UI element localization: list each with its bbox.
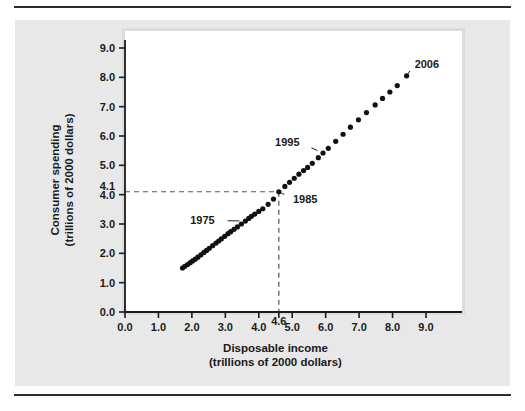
- annotation-label: 1995: [275, 136, 299, 148]
- annotation-group: 1975198519952006: [190, 58, 439, 227]
- data-point: [320, 150, 325, 155]
- y-tick-label: 8.0: [100, 71, 115, 83]
- data-point: [276, 189, 281, 194]
- y-axis-subtitle: (trillions of 2000 dollars): [63, 113, 75, 246]
- data-point: [364, 110, 369, 115]
- x-tick-label: 8.0: [385, 321, 400, 333]
- annotation-label: 1985: [293, 193, 317, 205]
- x-tick-group: 0.01.02.03.04.05.06.07.08.09.04.6: [117, 312, 433, 333]
- data-point: [316, 155, 321, 160]
- annotation-leader-line: [407, 71, 410, 75]
- x-tick-label: 0.0: [117, 321, 132, 333]
- x-tick-label: 5.0: [285, 321, 300, 333]
- data-point: [271, 196, 276, 201]
- x-tick-label-special: 4.6: [271, 315, 286, 327]
- data-point: [287, 180, 292, 185]
- data-point: [326, 146, 331, 151]
- data-point: [266, 202, 271, 207]
- data-point: [282, 184, 287, 189]
- data-point: [310, 161, 315, 166]
- x-tick-label: 6.0: [318, 321, 333, 333]
- data-point: [292, 176, 297, 181]
- annotation-label: 2006: [415, 58, 439, 70]
- y-tick-label: 9.0: [100, 42, 115, 54]
- x-tick-label: 1.0: [151, 321, 166, 333]
- y-tick-label: 7.0: [100, 101, 115, 113]
- scatter-chart: 0.01.02.03.04.05.06.07.08.09.04.6 0.01.0…: [0, 0, 525, 411]
- data-point: [373, 102, 378, 107]
- data-point: [301, 168, 306, 173]
- data-point: [356, 117, 361, 122]
- x-axis-subtitle: (trillions of 2000 dollars): [209, 356, 342, 368]
- data-point: [260, 206, 265, 211]
- x-tick-label: 3.0: [218, 321, 233, 333]
- data-point: [404, 73, 409, 78]
- data-point: [340, 132, 345, 137]
- annotation-leader-line: [311, 148, 317, 151]
- y-tick-label: 3.0: [100, 218, 115, 230]
- y-tick-label: 6.0: [100, 130, 115, 142]
- figure-container: 0.01.02.03.04.05.06.07.08.09.04.6 0.01.0…: [0, 0, 525, 411]
- x-axis-title: Disposable income: [223, 342, 328, 354]
- data-point: [305, 165, 310, 170]
- annotation-label: 1975: [190, 214, 214, 226]
- y-tick-label: 0.0: [100, 306, 115, 318]
- data-point-group: [180, 73, 409, 270]
- data-point: [395, 83, 400, 88]
- data-point: [380, 96, 385, 101]
- data-point: [348, 125, 353, 130]
- data-point: [387, 89, 392, 94]
- y-tick-label: 1.0: [100, 277, 115, 289]
- y-tick-group: 0.01.02.03.04.05.06.07.08.09.04.1: [100, 42, 125, 318]
- y-axis-title: Consumer spending: [49, 124, 61, 235]
- data-point: [296, 172, 301, 177]
- y-tick-label-special: 4.1: [100, 180, 115, 192]
- y-tick-label: 2.0: [100, 247, 115, 259]
- x-tick-label: 2.0: [184, 321, 199, 333]
- data-point: [333, 139, 338, 144]
- x-tick-label: 9.0: [418, 321, 433, 333]
- x-tick-label: 4.0: [251, 321, 266, 333]
- y-tick-label: 5.0: [100, 159, 115, 171]
- x-tick-label: 7.0: [351, 321, 366, 333]
- annotation-leader-line: [281, 193, 284, 194]
